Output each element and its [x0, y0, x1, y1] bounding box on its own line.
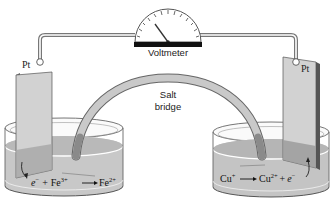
voltmeter-label: Voltmeter [148, 47, 188, 58]
wire-right [200, 35, 296, 62]
left-electrode-label: Pt [22, 59, 31, 70]
salt-bridge-label-line1: Salt [160, 89, 177, 100]
right-electrode-label: Pt [301, 63, 310, 74]
left-pt-electrode: Pt [16, 59, 52, 178]
right-wire-terminal [293, 59, 300, 66]
voltmeter: Voltmeter [134, 9, 202, 58]
electrochemical-cell-diagram: Voltmeter Pt [0, 0, 335, 206]
salt-bridge-label-line2: bridge [155, 101, 181, 112]
right-pt-electrode: Pt [283, 57, 320, 170]
wire-left [40, 35, 135, 62]
left-wire-terminal [37, 59, 44, 66]
